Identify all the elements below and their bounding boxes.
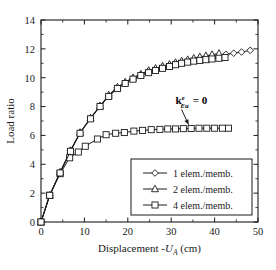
y-tick-label: 8 — [30, 101, 35, 112]
data-point-marker-square — [197, 57, 203, 63]
data-point-marker-square — [106, 93, 112, 99]
data-point-marker-square — [219, 125, 225, 131]
y-tick-label: 6 — [30, 130, 35, 141]
data-point-marker-square — [152, 202, 158, 208]
data-point-marker-square — [114, 85, 120, 91]
x-tick-label: 40 — [209, 226, 220, 237]
chart-figure: 0102030405002468101214 keEu = 0 1 elem./… — [0, 0, 276, 270]
data-point-marker-square — [87, 116, 93, 122]
data-point-marker-square — [82, 143, 88, 149]
data-point-marker-square — [131, 128, 137, 134]
data-point-marker-square — [153, 67, 159, 73]
data-point-marker-square — [166, 63, 172, 69]
data-point-marker-square — [77, 130, 83, 136]
data-point-marker-square — [130, 76, 136, 82]
data-point-marker-square — [204, 125, 210, 131]
data-point-marker-square — [122, 80, 128, 86]
data-point-marker-square — [173, 126, 179, 132]
data-point-marker-square — [188, 125, 194, 131]
annotation-formula: keEu = 0 — [176, 94, 208, 109]
data-point-marker-square — [159, 65, 165, 71]
x-tick-label: 50 — [253, 226, 264, 237]
legend-label: 1 elem./memb. — [173, 168, 233, 179]
data-point-marker-square — [196, 125, 202, 131]
y-tick-label: 10 — [25, 73, 36, 84]
data-point-marker-diamond — [238, 49, 245, 56]
data-point-marker-square — [94, 136, 100, 142]
x-tick-label: 30 — [166, 226, 177, 237]
data-point-marker-square — [185, 59, 191, 65]
chart-plot-area: 0102030405002468101214 keEu = 0 1 elem./… — [0, 0, 276, 270]
data-point-marker-square — [216, 55, 222, 61]
y-tick-label: 0 — [30, 217, 35, 228]
x-tick-label: 10 — [79, 226, 90, 237]
data-point-marker-square — [67, 148, 73, 154]
data-point-marker-square — [75, 149, 81, 155]
data-point-marker-square — [38, 219, 44, 225]
data-point-marker-square — [191, 58, 197, 64]
data-point-marker-square — [47, 192, 53, 198]
data-point-marker-square — [138, 73, 144, 79]
data-point-marker-square — [173, 62, 179, 68]
legend-label: 4 elem./memb. — [173, 200, 233, 211]
x-axis-title: Displacement -UA (cm) — [98, 242, 201, 257]
y-tick-label: 4 — [30, 159, 36, 170]
data-point-marker-square — [57, 170, 63, 176]
y-tick-label: 12 — [25, 44, 36, 55]
data-point-marker-square — [157, 126, 163, 132]
y-tick-label: 2 — [30, 188, 35, 199]
legend-label: 2 elem./memb. — [173, 184, 233, 195]
data-point-marker-square — [225, 125, 231, 131]
data-point-marker-square — [148, 127, 154, 133]
y-axis-title: Load ratio — [4, 98, 16, 144]
legend: 1 elem./memb.2 elem./memb.4 elem./memb. — [131, 159, 252, 215]
data-point-marker-square — [222, 54, 228, 60]
data-point-marker-square — [97, 104, 103, 110]
annotation-group: keEu = 0 — [176, 94, 208, 124]
data-point-marker-square — [121, 130, 127, 136]
data-point-marker-square — [103, 132, 109, 138]
data-point-marker-square — [203, 57, 209, 63]
data-point-marker-square — [212, 125, 218, 131]
data-point-marker-square — [113, 130, 119, 136]
data-point-marker-square — [146, 70, 152, 76]
data-point-marker-square — [179, 60, 185, 66]
data-point-marker-square — [140, 127, 146, 133]
y-tick-label: 14 — [25, 15, 36, 26]
data-point-marker-square — [180, 126, 186, 132]
x-tick-label: 0 — [38, 226, 43, 237]
data-point-marker-diamond — [230, 50, 237, 57]
data-point-marker-square — [165, 126, 171, 132]
data-point-marker-square — [209, 56, 215, 62]
data-point-marker-diamond — [247, 47, 254, 54]
x-tick-label: 20 — [123, 226, 134, 237]
